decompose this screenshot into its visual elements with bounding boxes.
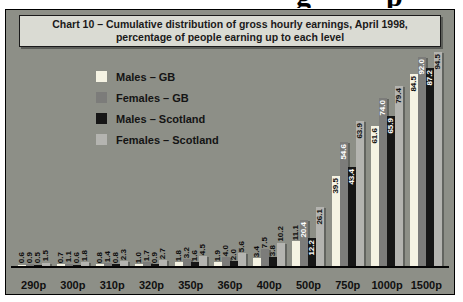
x-axis-label-750p: 750p bbox=[328, 279, 367, 291]
screenshot-root: g p Chart 10 – Cumulative distribution o… bbox=[0, 0, 463, 302]
bar-males-scotland-400p: 3.8 bbox=[269, 257, 277, 266]
bar-females-scotland-750p: 63.9 bbox=[356, 121, 364, 266]
bar-value-label: 94.5 bbox=[433, 54, 443, 70]
bar-value-label: 26.1 bbox=[315, 209, 325, 225]
bar-males-scotland-750p: 43.4 bbox=[348, 167, 356, 266]
cropped-heading-fragment: g p bbox=[0, 0, 463, 8]
bar-value-label: 10.2 bbox=[276, 226, 286, 242]
x-axis-label-1000p: 1000p bbox=[367, 279, 406, 291]
bar-group-750p: 39.554.643.463.9 bbox=[328, 44, 367, 266]
bar-value-label: 2.7 bbox=[158, 248, 168, 259]
bar-males-scotland-1500p: 87.2 bbox=[426, 68, 434, 266]
bar-males-gb-500p: 11.1 bbox=[292, 241, 300, 266]
bar-group-1000p: 61.674.065.979.4 bbox=[367, 44, 406, 266]
chart-title-line2: percentage of people earning up to each … bbox=[116, 31, 344, 44]
bar-group-1500p: 84.592.087.294.5 bbox=[407, 44, 446, 266]
chart-panel: Chart 10 – Cumulative distribution of gr… bbox=[5, 9, 455, 295]
bar-females-gb-1500p: 92.0 bbox=[418, 57, 426, 266]
x-axis-label-400p: 400p bbox=[250, 279, 289, 291]
bar-males-scotland-1000p: 65.9 bbox=[387, 116, 395, 266]
cropped-letter: g bbox=[296, 0, 311, 8]
bar-males-gb-1000p: 61.6 bbox=[371, 126, 379, 266]
bar-group-360p: 1.94.02.05.6 bbox=[210, 44, 249, 266]
bar-value-label: 74.0 bbox=[378, 100, 388, 116]
bar-group-350p: 1.83.21.64.5 bbox=[171, 44, 210, 266]
x-axis-label-360p: 360p bbox=[210, 279, 249, 291]
chart-title-line1: Chart 10 – Cumulative distribution of gr… bbox=[52, 18, 408, 31]
bar-value-label: 20.4 bbox=[299, 222, 309, 238]
bar-females-scotland-400p: 10.2 bbox=[277, 243, 285, 266]
bar-males-gb-1500p: 84.5 bbox=[410, 74, 418, 266]
x-axis-label-350p: 350p bbox=[171, 279, 210, 291]
plot-area: 0.60.90.51.50.71.10.61.80.81.40.82.31.01… bbox=[14, 44, 446, 266]
bar-value-label: 1.8 bbox=[80, 250, 90, 261]
cropped-letter: p bbox=[386, 0, 403, 8]
x-axis-label-1500p: 1500p bbox=[407, 279, 446, 291]
x-axis-labels: 290p300p310p320p350p360p400p500p750p1000… bbox=[14, 279, 446, 291]
x-axis-label-320p: 320p bbox=[132, 279, 171, 291]
chart-title: Chart 10 – Cumulative distribution of gr… bbox=[19, 15, 441, 47]
x-axis-line bbox=[11, 266, 449, 268]
bar-females-gb-750p: 54.6 bbox=[340, 142, 348, 266]
bar-females-scotland-500p: 26.1 bbox=[316, 207, 324, 266]
bar-females-scotland-1500p: 94.5 bbox=[434, 52, 442, 267]
x-axis-label-310p: 310p bbox=[93, 279, 132, 291]
bar-group-290p: 0.60.90.51.5 bbox=[14, 44, 53, 266]
x-axis-label-290p: 290p bbox=[14, 279, 53, 291]
bar-group-400p: 3.47.53.810.2 bbox=[250, 44, 289, 266]
bar-value-label: 63.9 bbox=[355, 123, 365, 139]
bar-females-scotland-360p: 5.6 bbox=[238, 253, 246, 266]
bar-group-320p: 1.01.70.92.7 bbox=[132, 44, 171, 266]
bar-females-scotland-350p: 4.5 bbox=[199, 256, 207, 266]
bar-value-label: 5.6 bbox=[237, 241, 247, 252]
bar-value-label: 2.3 bbox=[119, 249, 129, 260]
bar-group-310p: 0.81.40.82.3 bbox=[93, 44, 132, 266]
bar-group-500p: 11.120.412.226.1 bbox=[289, 44, 328, 266]
bar-value-label: 79.4 bbox=[394, 88, 404, 104]
bar-value-label: 54.6 bbox=[339, 144, 349, 160]
bar-males-gb-400p: 3.4 bbox=[253, 258, 261, 266]
bar-value-label: 4.5 bbox=[198, 244, 208, 255]
bar-males-gb-750p: 39.5 bbox=[332, 176, 340, 266]
x-axis-label-500p: 500p bbox=[289, 279, 328, 291]
bar-females-scotland-1000p: 79.4 bbox=[395, 86, 403, 266]
bar-group-300p: 0.71.10.61.8 bbox=[53, 44, 92, 266]
bar-value-label: 1.5 bbox=[41, 250, 51, 261]
x-axis-label-300p: 300p bbox=[53, 279, 92, 291]
bar-males-scotland-500p: 12.2 bbox=[308, 238, 316, 266]
